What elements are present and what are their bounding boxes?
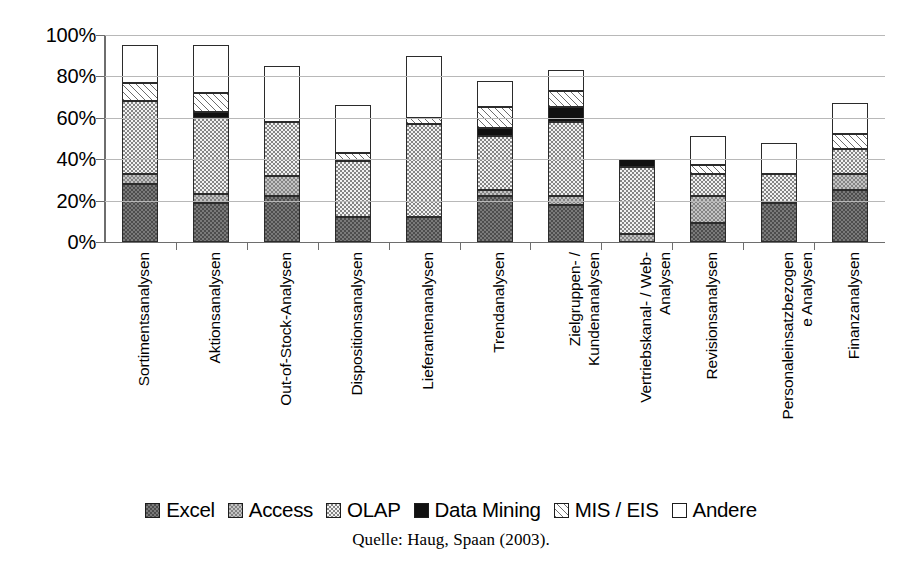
gridline <box>105 76 885 77</box>
bar-segment <box>335 105 371 153</box>
bar-segment <box>548 205 584 242</box>
bar-segment <box>761 143 797 174</box>
x-tick-mark <box>601 243 602 250</box>
bar-segment <box>548 107 584 121</box>
bar-segment <box>193 45 229 93</box>
bar-segment <box>122 184 158 242</box>
y-tick-mark <box>96 159 105 160</box>
legend-swatch-icon <box>145 503 160 518</box>
x-tick-mark <box>460 243 461 250</box>
legend-item: Access <box>228 498 313 522</box>
legend-label: Andere <box>693 498 757 522</box>
legend-item: MIS / EIS <box>554 498 659 522</box>
bar-segment <box>832 174 868 191</box>
bar-segment <box>264 196 300 242</box>
legend-label: Access <box>249 498 313 522</box>
bar-stack <box>832 35 868 242</box>
legend-label: MIS / EIS <box>575 498 659 522</box>
bar-segment <box>832 149 868 174</box>
bar-segment <box>761 203 797 242</box>
bar-segment <box>832 190 868 242</box>
x-tick-mark <box>389 243 390 250</box>
bar-segment <box>690 223 726 242</box>
gridline <box>105 201 885 202</box>
legend-item: OLAP <box>326 498 401 522</box>
x-category-label: Vertriebskanal- / Web- Analysen <box>636 252 674 482</box>
legend-item: Excel <box>145 498 215 522</box>
bar-segment <box>832 103 868 134</box>
bar-segment <box>122 101 158 173</box>
x-category-label: Aktionsanalysen <box>205 252 224 482</box>
x-tick-mark <box>672 243 673 250</box>
source-caption: Quelle: Haug, Spaan (2003). <box>0 530 902 550</box>
bar-stack <box>477 35 513 242</box>
x-category-label: Finanzanalysen <box>844 252 863 482</box>
bar-stack <box>406 35 442 242</box>
y-tick-mark <box>96 76 105 77</box>
bar-segment <box>477 136 513 190</box>
legend-label: Excel <box>166 498 215 522</box>
bar-segment <box>406 56 442 118</box>
x-category-label: Revisionsanalysen <box>702 252 721 482</box>
bar-stack <box>690 35 726 242</box>
x-tick-mark <box>530 243 531 250</box>
bar-segment <box>335 161 371 217</box>
legend-swatch-icon <box>554 503 569 518</box>
x-category-label: Out-of-Stock-Analysen <box>276 252 295 482</box>
bar-segment <box>619 234 655 242</box>
y-tick-mark <box>96 242 105 243</box>
bar-stack <box>264 35 300 242</box>
legend-item: Data Mining <box>414 498 541 522</box>
bar-stack <box>548 35 584 242</box>
bar-segment <box>335 217 371 242</box>
bar-segment <box>193 203 229 242</box>
bar-segment <box>264 122 300 176</box>
x-category-label: Zielgruppen- / Kundenanalysen <box>565 252 603 482</box>
bar-stack <box>761 35 797 242</box>
bar-stack <box>619 35 655 242</box>
x-category-label: Sortimentsanalysen <box>134 252 153 482</box>
x-category-label: Dispositionsanalysen <box>347 252 366 482</box>
bar-segment <box>477 128 513 136</box>
bar-segment <box>477 190 513 196</box>
bar-segment <box>264 66 300 122</box>
bar-segment <box>619 159 655 167</box>
bar-segment <box>761 174 797 203</box>
bar-stack <box>122 35 158 242</box>
bar-stack <box>335 35 371 242</box>
legend-label: Data Mining <box>435 498 541 522</box>
bar-segment <box>690 165 726 173</box>
plot-area: 0%20%40%60%80%100% <box>0 0 902 262</box>
gridline <box>105 118 885 119</box>
bars-layer <box>0 0 902 262</box>
gridline <box>105 35 885 36</box>
legend-item: Andere <box>672 498 757 522</box>
y-tick-mark <box>96 35 105 36</box>
x-axis-category-labels: SortimentsanalysenAktionsanalysenOut-of-… <box>0 252 902 492</box>
x-category-label: Personaleinsatzbezogen e Analysen <box>778 252 816 482</box>
bar-segment <box>548 70 584 91</box>
bar-segment <box>193 93 229 112</box>
gridline <box>105 159 885 160</box>
bar-segment <box>690 136 726 165</box>
chart-legend: ExcelAccessOLAPData MiningMIS / EISAnder… <box>0 498 902 522</box>
bar-segment <box>406 217 442 242</box>
y-tick-mark <box>96 201 105 202</box>
x-category-label: Lieferantenanalysen <box>418 252 437 482</box>
x-category-label: Trendanalysen <box>489 252 508 482</box>
bar-segment <box>193 118 229 195</box>
legend-swatch-icon <box>672 503 687 518</box>
x-tick-mark <box>176 243 177 250</box>
x-tick-mark <box>814 243 815 250</box>
legend-swatch-icon <box>414 503 429 518</box>
legend-label: OLAP <box>347 498 401 522</box>
bar-stack <box>193 35 229 242</box>
bar-segment <box>548 91 584 108</box>
x-tick-mark <box>247 243 248 250</box>
y-tick-mark <box>96 118 105 119</box>
bar-segment <box>477 81 513 108</box>
bar-segment <box>406 124 442 217</box>
bar-segment <box>832 134 868 148</box>
legend-swatch-icon <box>326 503 341 518</box>
bar-segment <box>690 174 726 197</box>
